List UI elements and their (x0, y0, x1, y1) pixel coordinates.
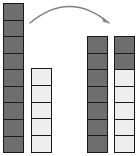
transfer-arrow-head (102, 17, 110, 24)
filled-cell (4, 54, 23, 71)
empty-cell (115, 103, 134, 120)
filled-cell (88, 103, 107, 120)
filled-cell (4, 137, 23, 153)
filled-cell (115, 37, 134, 54)
filled-cell (4, 4, 23, 21)
empty-cell (115, 136, 134, 152)
diagram-canvas (0, 0, 140, 156)
filled-cell (4, 120, 23, 137)
filled-cell (88, 37, 107, 54)
filled-cell (4, 87, 23, 104)
empty-cell (32, 69, 51, 86)
filled-cell (4, 103, 23, 120)
filled-cell (88, 54, 107, 71)
block-column (3, 3, 24, 153)
transfer-arrow (30, 7, 109, 24)
filled-cell (115, 54, 134, 71)
filled-cell (4, 37, 23, 54)
empty-cell (32, 119, 51, 136)
block-column (114, 36, 135, 153)
filled-cell (4, 70, 23, 87)
empty-cell (32, 136, 51, 152)
empty-cell (115, 70, 134, 87)
block-column (31, 68, 52, 153)
transfer-arrow-curve (30, 7, 109, 24)
empty-cell (32, 86, 51, 103)
filled-cell (88, 136, 107, 152)
empty-cell (115, 87, 134, 104)
filled-cell (88, 120, 107, 137)
empty-cell (32, 103, 51, 120)
block-column (87, 36, 108, 153)
filled-cell (88, 70, 107, 87)
filled-cell (88, 87, 107, 104)
empty-cell (115, 120, 134, 137)
filled-cell (4, 21, 23, 38)
